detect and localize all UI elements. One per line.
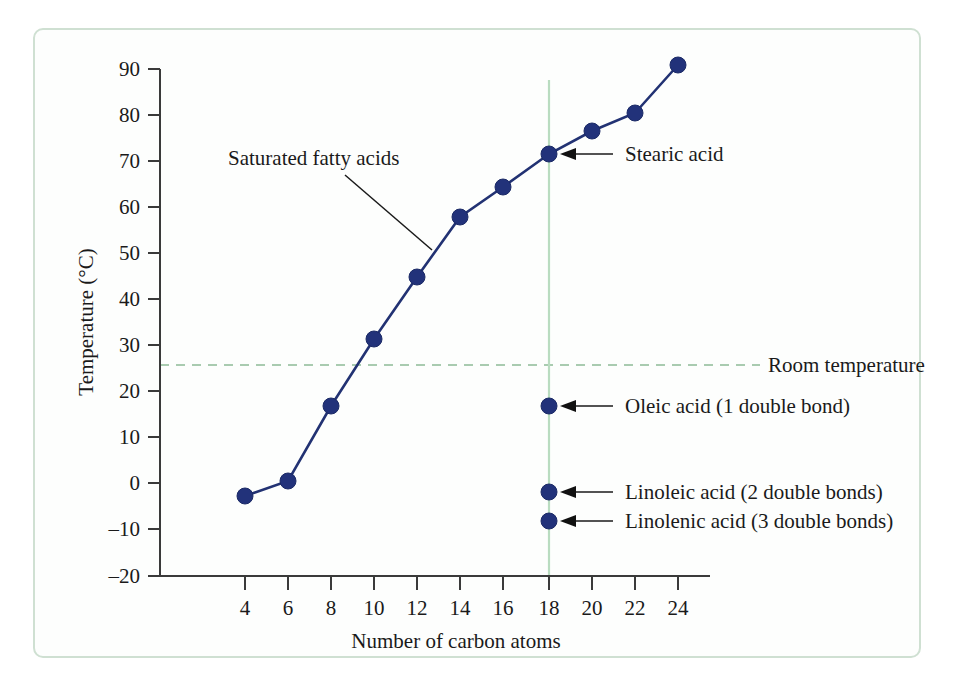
y-tick-label: 20 — [119, 379, 140, 403]
x-tick-label: 16 — [493, 596, 514, 620]
data-point-c16 — [495, 179, 511, 195]
figure-canvas: 90 80 70 60 50 40 30 20 10 0 –10 –20 — [0, 0, 969, 692]
annotation-stearic-acid: Stearic acid — [625, 142, 724, 166]
saturated-series-line — [245, 65, 678, 496]
data-point-c8 — [323, 398, 339, 414]
y-tick-label: 70 — [119, 149, 140, 173]
saturated-leader-line — [345, 175, 432, 250]
y-tick-label: 60 — [119, 195, 140, 219]
annotation-oleic-acid: Oleic acid (1 double bond) — [625, 394, 850, 418]
x-tick-label: 14 — [450, 596, 472, 620]
x-tick-label: 10 — [364, 596, 385, 620]
oleic-arrow-head — [560, 400, 576, 412]
x-tick-label: 6 — [283, 596, 294, 620]
data-point-c20 — [584, 123, 600, 139]
y-tick-label: 0 — [130, 471, 141, 495]
stearic-arrow-head — [560, 148, 576, 160]
x-axis-tick-labels: 4 6 8 10 12 14 16 18 20 22 24 — [240, 596, 689, 620]
data-point-c12 — [409, 269, 425, 285]
annotation-linolenic-acid: Linolenic acid (3 double bonds) — [625, 509, 893, 533]
data-point-linoleic — [541, 484, 557, 500]
saturated-series-markers — [237, 57, 686, 504]
y-axis-ticks — [148, 69, 160, 576]
chart-plot: 90 80 70 60 50 40 30 20 10 0 –10 –20 — [0, 0, 969, 692]
data-point-c10 — [366, 331, 382, 347]
data-point-linolenic — [541, 513, 557, 529]
linolenic-arrow-head — [560, 515, 576, 527]
data-point-c6 — [280, 473, 296, 489]
y-tick-label: 90 — [119, 57, 140, 81]
y-axis-title: Temperature (°C) — [74, 248, 98, 395]
data-point-c14 — [452, 209, 468, 225]
y-tick-label: 50 — [119, 241, 140, 265]
x-tick-label: 20 — [582, 596, 603, 620]
y-tick-label: –20 — [108, 564, 141, 588]
y-tick-label: 80 — [119, 103, 140, 127]
annotation-linoleic-acid: Linoleic acid (2 double bonds) — [625, 480, 883, 504]
x-tick-label: 18 — [539, 596, 560, 620]
y-axis-tick-labels: 90 80 70 60 50 40 30 20 10 0 –10 –20 — [108, 57, 141, 588]
annotation-room-temperature: Room temperature — [768, 353, 925, 377]
x-tick-label: 12 — [407, 596, 428, 620]
linoleic-arrow-head — [560, 486, 576, 498]
data-point-c22 — [627, 105, 643, 121]
x-tick-label: 8 — [326, 596, 337, 620]
y-tick-label: –10 — [108, 517, 141, 541]
data-point-c24 — [670, 57, 686, 73]
x-axis-ticks — [245, 576, 678, 590]
x-tick-label: 22 — [625, 596, 646, 620]
x-tick-label: 24 — [668, 596, 690, 620]
data-point-c18-stearic — [541, 146, 557, 162]
y-tick-label: 40 — [119, 287, 140, 311]
y-tick-label: 30 — [119, 333, 140, 357]
data-point-oleic — [541, 398, 557, 414]
x-tick-label: 4 — [240, 596, 251, 620]
data-point-c4 — [237, 488, 253, 504]
annotation-saturated-fatty-acids: Saturated fatty acids — [228, 146, 399, 170]
x-axis-title: Number of carbon atoms — [351, 629, 560, 653]
y-tick-label: 10 — [119, 425, 140, 449]
